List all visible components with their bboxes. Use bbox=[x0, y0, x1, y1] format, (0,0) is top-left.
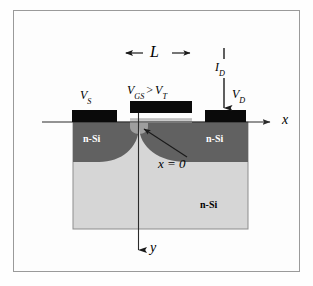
source-voltage-label: VS bbox=[80, 89, 91, 105]
substrate-region-label: n-Si bbox=[200, 200, 217, 210]
drain-voltage-subscript: D bbox=[239, 96, 245, 105]
source-region-label: n-Si bbox=[83, 134, 100, 144]
drain-contact-rect bbox=[205, 110, 246, 122]
figure-root: L VGS>VT VS ID VD x y x = 0 n-Si n-Si n-… bbox=[0, 0, 313, 286]
gate-voltage-condition-label: VGS>VT bbox=[127, 84, 167, 100]
x-axis-label: x bbox=[282, 113, 288, 127]
drain-voltage-label: VD bbox=[232, 88, 245, 104]
drain-region-label: n-Si bbox=[206, 134, 223, 144]
threshold-voltage-subscript: T bbox=[162, 92, 167, 101]
drain-current-label: ID bbox=[215, 61, 225, 77]
origin-note-label: x = 0 bbox=[158, 157, 186, 170]
gate-condition-operator: > bbox=[144, 83, 155, 97]
source-contact-rect bbox=[72, 110, 117, 122]
gate-voltage-subscript: GS bbox=[134, 92, 144, 101]
gate-contact-rect bbox=[130, 101, 192, 113]
source-voltage-subscript: S bbox=[87, 97, 91, 106]
y-axis-label: y bbox=[150, 241, 156, 255]
channel-length-label: L bbox=[150, 44, 159, 60]
drain-current-subscript: D bbox=[219, 69, 225, 78]
